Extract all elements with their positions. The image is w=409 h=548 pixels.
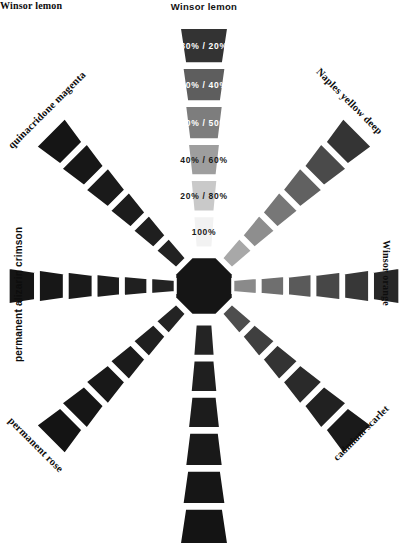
swatch[interactable] xyxy=(260,275,284,296)
swatch[interactable] xyxy=(190,360,218,392)
swatch[interactable] xyxy=(315,271,341,300)
ratio-label: 60% / 40% xyxy=(180,80,227,90)
swatch[interactable] xyxy=(344,269,370,302)
swatch[interactable] xyxy=(96,273,120,298)
ratio-label: 100% xyxy=(192,227,217,237)
pigment-label-right: Winsor orange xyxy=(381,240,392,306)
swatch[interactable] xyxy=(67,271,93,300)
swatch[interactable] xyxy=(187,396,220,428)
arm-left xyxy=(8,267,175,304)
arm-top xyxy=(179,28,228,248)
arm-right xyxy=(233,267,400,304)
center-hub xyxy=(176,258,231,313)
swatch[interactable] xyxy=(38,269,64,302)
swatch[interactable] xyxy=(185,432,224,466)
arm-bottom-left xyxy=(35,303,186,454)
ratio-label: 50% / 50% xyxy=(180,118,227,128)
swatch[interactable] xyxy=(151,278,175,295)
ratio-label: 40% / 60% xyxy=(180,155,227,165)
swatch[interactable] xyxy=(233,278,257,295)
arm-top-right xyxy=(221,117,372,268)
arm-bottom-right xyxy=(221,303,372,454)
pigment-label-top: Winsor lemon xyxy=(0,0,62,11)
swatch[interactable] xyxy=(123,275,147,296)
pigment-label-left: permanent alizarin crimson xyxy=(13,227,24,362)
swatch[interactable] xyxy=(288,273,312,298)
arm-bottom xyxy=(179,324,228,544)
swatch[interactable] xyxy=(182,470,226,504)
ratio-label: 80% / 20% xyxy=(180,41,227,51)
arm-top-left xyxy=(35,117,186,268)
ratio-label: 20% / 80% xyxy=(180,191,227,201)
swatch[interactable] xyxy=(193,324,215,356)
swatch[interactable] xyxy=(179,508,228,544)
